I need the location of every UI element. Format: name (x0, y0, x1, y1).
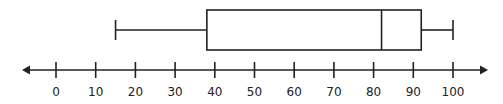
interquartile-box (207, 10, 421, 50)
right-arrow-icon (480, 66, 488, 75)
axis-tick-label: 100 (442, 85, 465, 99)
axis-tick-label: 20 (128, 85, 143, 99)
axis-tick-label: 50 (247, 85, 262, 99)
axis-tick-label: 60 (287, 85, 302, 99)
left-arrow-icon (22, 66, 30, 75)
axis-tick-label: 10 (88, 85, 103, 99)
axis-tick-label: 80 (366, 85, 381, 99)
axis-tick-label: 90 (406, 85, 421, 99)
axis-tick-label: 40 (207, 85, 222, 99)
axis-tick-label: 30 (167, 85, 182, 99)
box-plot-chart: 0102030405060708090100 (0, 0, 503, 104)
axis-tick-label: 70 (326, 85, 341, 99)
axis-tick-label: 0 (52, 85, 60, 99)
